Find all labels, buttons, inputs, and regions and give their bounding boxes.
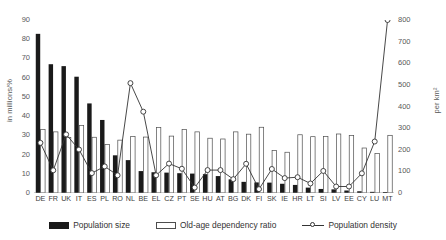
- old-age-dependency-bar-UK: [66, 137, 70, 193]
- population-size-bar-HU: [203, 174, 207, 193]
- chart-legend: Population size Old-age dependency ratio…: [0, 215, 446, 235]
- y-tick-left-70: 70: [10, 54, 30, 62]
- old-age-dependency-bar-AT: [221, 139, 225, 193]
- population-density-marker-PT: [179, 166, 184, 171]
- y-tick-right-800: 800: [398, 16, 420, 24]
- population-density-marker-IT: [77, 147, 82, 152]
- population-density-marker-BG: [231, 177, 236, 182]
- old-age-dependency-bar-LU: [375, 154, 379, 193]
- old-age-dependency-bar-IE: [285, 152, 289, 193]
- y-tick-right-400: 400: [398, 103, 420, 111]
- y-tick-left-30: 30: [10, 131, 30, 139]
- old-age-dependency-bar-SI: [324, 136, 328, 193]
- population-size-bar-HR: [293, 185, 297, 193]
- population-size-bar-FR: [49, 64, 53, 193]
- old-age-dependency-bar-HU: [208, 138, 212, 193]
- y-tick-right-200: 200: [398, 146, 420, 154]
- population-density-marker-HU: [205, 168, 210, 173]
- population-density-marker-ES: [89, 171, 94, 176]
- old-age-dependency-bar-HR: [298, 135, 302, 193]
- y-tick-left-0: 0: [10, 189, 30, 197]
- plot-area: [34, 20, 394, 193]
- population-size-bar-LT: [306, 188, 310, 193]
- old-age-dependency-bar-PT: [182, 130, 186, 193]
- y-tick-left-10: 10: [10, 170, 30, 178]
- population-size-bar-DE: [36, 34, 40, 193]
- old-age-dependency-bar-EL: [156, 128, 160, 193]
- population-density-marker-LT: [308, 181, 313, 186]
- population-size-bar-LV: [331, 189, 335, 193]
- population-density-marker-FI: [257, 187, 262, 192]
- population-density-marker-SK: [269, 167, 274, 172]
- plot-svg: [34, 20, 394, 193]
- x-label-MT: MT: [377, 194, 398, 204]
- y-axis-right-title: per km²: [432, 61, 441, 141]
- population-density-marker-SE: [192, 185, 197, 190]
- legend-label-old-age-dependency-ratio: Old-age dependency ratio: [180, 220, 276, 230]
- y-tick-left-80: 80: [10, 35, 30, 43]
- population-density-marker-RO: [115, 173, 120, 178]
- filled-bar-swatch-icon: [49, 222, 69, 229]
- population-size-bar-PL: [100, 120, 104, 193]
- population-density-marker-NL: [128, 81, 133, 86]
- population-size-bar-DK: [241, 182, 245, 193]
- y-tick-left-60: 60: [10, 74, 30, 82]
- y-tick-left-40: 40: [10, 112, 30, 120]
- y-tick-left-20: 20: [10, 151, 30, 159]
- population-density-marker-HR: [295, 175, 300, 180]
- legend-item-population-size: Population size: [49, 220, 130, 230]
- y-tick-left-90: 90: [10, 16, 30, 24]
- population-density-marker-AT: [218, 168, 223, 173]
- legend-item-population-density: Population density: [302, 220, 396, 230]
- population-density-marker-MT: [385, 20, 390, 23]
- population-density-marker-IE: [282, 176, 287, 181]
- old-age-dependency-bar-ES: [92, 137, 96, 193]
- population-density-marker-DE: [38, 140, 43, 145]
- population-size-bar-NL: [126, 160, 130, 193]
- population-density-marker-UK: [64, 132, 69, 137]
- old-age-dependency-bar-IT: [79, 125, 83, 193]
- legend-label-population-density: Population density: [328, 220, 396, 230]
- population-density-marker-DK: [244, 161, 249, 166]
- population-size-bar-UK: [61, 66, 65, 193]
- population-size-bar-ES: [87, 103, 91, 193]
- legend-item-old-age-dependency-ratio: Old-age dependency ratio: [156, 220, 276, 230]
- population-size-bar-SK: [267, 183, 271, 193]
- y-tick-right-100: 100: [398, 167, 420, 175]
- population-density-marker-PL: [102, 164, 107, 169]
- population-density-marker-FR: [51, 168, 56, 173]
- y-tick-left-50: 50: [10, 93, 30, 101]
- population-size-bar-IE: [280, 184, 284, 193]
- population-size-bar-IT: [74, 77, 78, 193]
- population-statistics-chart: in millions/% per km² 010203040506070809…: [0, 0, 446, 240]
- population-density-marker-EL: [154, 173, 159, 178]
- old-age-dependency-bar-BE: [144, 137, 148, 193]
- population-density-marker-CZ: [167, 161, 172, 166]
- old-age-dependency-bar-DE: [41, 129, 45, 193]
- line-circle-swatch-icon: [302, 221, 324, 229]
- y-tick-right-600: 600: [398, 59, 420, 67]
- population-size-bar-CZ: [164, 173, 168, 193]
- population-density-marker-LU: [372, 139, 377, 144]
- old-age-dependency-bar-NL: [131, 136, 135, 193]
- y-tick-right-300: 300: [398, 124, 420, 132]
- population-size-bar-BE: [139, 171, 143, 193]
- old-age-dependency-bar-MT: [388, 135, 392, 193]
- population-density-marker-LV: [334, 184, 339, 189]
- old-age-dependency-bar-BG: [234, 132, 238, 193]
- population-size-bar-SI: [319, 189, 323, 193]
- population-density-marker-EE: [347, 184, 352, 189]
- legend-label-population-size: Population size: [73, 220, 130, 230]
- population-density-marker-SI: [321, 168, 326, 173]
- population-size-bar-AT: [216, 176, 220, 193]
- outline-bar-swatch-icon: [156, 222, 176, 229]
- population-density-marker-CY: [359, 171, 364, 176]
- population-density-marker-BE: [141, 109, 146, 114]
- y-tick-right-700: 700: [398, 38, 420, 46]
- y-tick-right-0: 0: [398, 189, 420, 197]
- x-axis-labels: DEFRUKITESPLRONLBEELCZPTSEHUATBGDKFISKIE…: [34, 194, 394, 206]
- population-size-bar-PT: [177, 173, 181, 193]
- y-tick-right-500: 500: [398, 81, 420, 89]
